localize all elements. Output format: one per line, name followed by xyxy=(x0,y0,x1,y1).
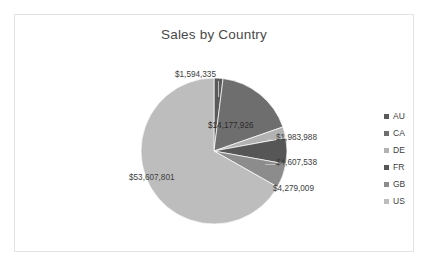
data-label-fr: $4,607,538 xyxy=(276,158,317,167)
legend-swatch-us xyxy=(384,199,389,204)
data-label-de: $1,983,988 xyxy=(276,133,317,142)
legend-item-fr[interactable]: FR xyxy=(384,159,428,176)
legend-item-gb[interactable]: GB xyxy=(384,176,428,193)
pie-chart xyxy=(140,77,288,225)
pie-slice-group xyxy=(141,78,287,224)
legend-swatch-au xyxy=(384,114,389,119)
chart-legend: AUCADEFRGBUS xyxy=(384,108,428,210)
leader-line-gb xyxy=(261,190,272,191)
legend-item-de[interactable]: DE xyxy=(384,142,428,159)
legend-item-au[interactable]: AU xyxy=(384,108,428,125)
leader-line-de xyxy=(267,139,275,140)
legend-label-us: US xyxy=(393,197,405,206)
legend-label-ca: CA xyxy=(393,129,405,138)
legend-swatch-de xyxy=(384,148,389,153)
legend-swatch-fr xyxy=(384,165,389,170)
legend-label-fr: FR xyxy=(393,163,404,172)
chart-container: Sales by Country $1,594,335 $14,177,926 … xyxy=(14,14,414,252)
legend-swatch-gb xyxy=(384,182,389,187)
legend-label-gb: GB xyxy=(393,180,405,189)
legend-item-us[interactable]: US xyxy=(384,193,428,210)
legend-label-au: AU xyxy=(393,112,405,121)
data-label-au: $1,594,335 xyxy=(175,70,216,79)
data-label-ca: $14,177,926 xyxy=(208,121,254,130)
legend-label-de: DE xyxy=(393,146,405,155)
data-label-us: $53,607,801 xyxy=(129,173,175,182)
legend-swatch-ca xyxy=(384,131,389,136)
data-label-gb: $4,279,009 xyxy=(273,184,314,193)
leader-line-au xyxy=(218,81,219,97)
legend-item-ca[interactable]: CA xyxy=(384,125,428,142)
plot-area: $1,594,335 $14,177,926 $1,983,988 $4,607… xyxy=(15,15,413,251)
leader-line-fr xyxy=(265,164,275,165)
